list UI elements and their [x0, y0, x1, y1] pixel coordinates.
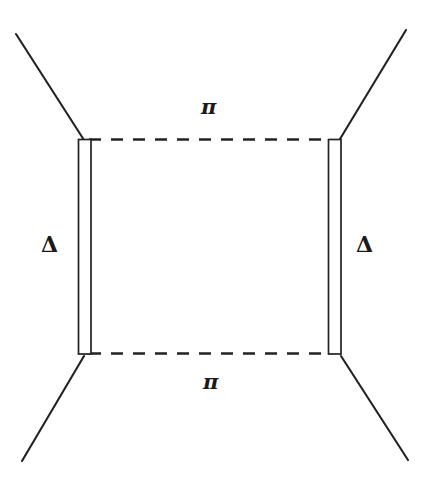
feynman-diagram-canvas: π π Δ Δ — [0, 0, 424, 479]
delta-label-left: Δ — [41, 233, 58, 255]
delta-bar-left — [79, 140, 92, 355]
pion-label-bottom: π — [203, 371, 218, 392]
delta-label-right: Δ — [356, 233, 373, 255]
delta-bar-right — [329, 140, 342, 355]
pion-label-top: π — [201, 96, 216, 117]
